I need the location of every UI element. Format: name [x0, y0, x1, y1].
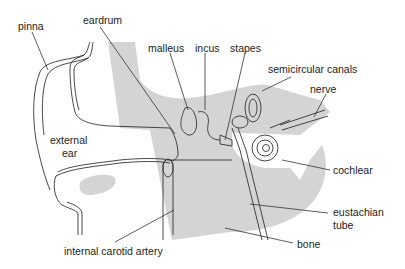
label-tube: tube: [333, 219, 353, 231]
label-eustachian: eustachian: [333, 206, 384, 218]
label-pinna: pinna: [18, 20, 44, 32]
label-external: external: [50, 134, 87, 146]
label-nerve: nerve: [310, 83, 336, 95]
label-stapes: stapes: [230, 42, 261, 54]
label-semicircular-canals: semicircular canals: [268, 63, 357, 75]
ear-diagram: pinna eardrum malleus incus stapes semic…: [0, 0, 405, 269]
label-ear: ear: [62, 147, 77, 159]
label-incus: incus: [195, 42, 220, 54]
label-eardrum: eardrum: [83, 14, 122, 26]
label-bone: bone: [297, 238, 320, 250]
label-internal-carotid-artery: internal carotid artery: [64, 245, 163, 257]
label-malleus: malleus: [148, 42, 184, 54]
label-cochlear: cochlear: [333, 164, 373, 176]
